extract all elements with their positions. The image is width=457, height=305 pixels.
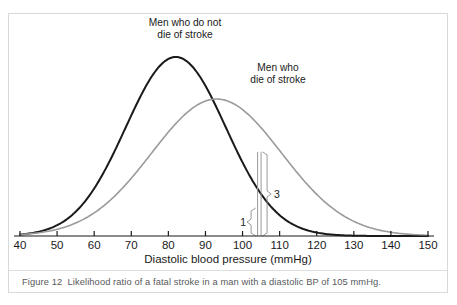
- x-axis-tick-label-50: 50: [51, 239, 64, 251]
- brace-ratio-denominator: [247, 208, 256, 236]
- brace-ratio-numerator: [263, 152, 272, 236]
- caption-divider: [9, 270, 447, 271]
- x-axis-tick-label-100: 100: [233, 239, 252, 251]
- x-axis: 405060708090100110120130140150: [14, 231, 438, 251]
- x-axis-tick-label-70: 70: [125, 239, 138, 251]
- curves-layer: [20, 57, 428, 236]
- x-axis-tick-label-90: 90: [199, 239, 212, 251]
- x-axis-tick-label-140: 140: [381, 239, 400, 251]
- figure-caption: Figure 12 Likelihood ratio of a fatal st…: [22, 277, 442, 287]
- curve-label-1-line2: die of stroke: [250, 74, 306, 85]
- figure-caption-text: Likelihood ratio of a fatal stroke in a …: [68, 277, 381, 287]
- x-axis-tick-label-40: 40: [14, 239, 27, 251]
- x-axis-title: Diastolic blood pressure (mmHg): [144, 253, 312, 265]
- x-axis-tick-label-130: 130: [344, 239, 363, 251]
- annotation-label-1: 1: [240, 216, 246, 228]
- x-axis-tick-label-150: 150: [418, 239, 437, 251]
- chart-plot-area: 31 405060708090100110120130140150 Men wh…: [0, 0, 457, 305]
- figure-caption-label: Figure 12: [22, 277, 62, 287]
- x-axis-tick-label-110: 110: [270, 239, 288, 251]
- x-axis-tick-label-80: 80: [162, 239, 175, 251]
- curve-series-0: [20, 57, 428, 236]
- annotation-label-3: 3: [274, 188, 280, 200]
- figure-container: 31 405060708090100110120130140150 Men wh…: [0, 0, 457, 305]
- curve-label-0-line1: Men who do not: [149, 17, 222, 28]
- x-axis-tick-label-120: 120: [307, 239, 326, 251]
- curve-label-1-line1: Men who: [257, 62, 299, 73]
- x-axis-tick-label-60: 60: [88, 239, 101, 251]
- curve-label-0-line2: die of stroke: [157, 29, 213, 40]
- curve-labels-layer: Men who do notdie of strokeMen whodie of…: [149, 17, 306, 85]
- curve-series-1: [20, 99, 428, 235]
